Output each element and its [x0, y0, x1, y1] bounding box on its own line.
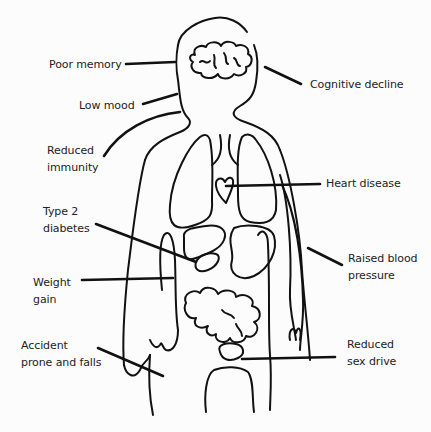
head-outline: [145, 18, 280, 160]
label-text-line1: Reduced: [47, 142, 99, 159]
digestive-organs: [184, 226, 275, 278]
bladder-icon: [219, 343, 243, 360]
body-diagram: Poor memory Low mood Reduced immunity Ty…: [0, 0, 431, 432]
label-text-line2: pressure: [348, 267, 417, 284]
label-type2-diabetes: Type 2 diabetes: [43, 203, 90, 237]
label-text-line2: sex drive: [347, 353, 396, 370]
label-weight-gain: Weight gain: [33, 274, 71, 308]
label-raised-blood-pressure: Raised blood pressure: [348, 250, 417, 284]
label-text-line2: prone and falls: [21, 354, 101, 371]
label-accident-prone: Accident prone and falls: [21, 337, 101, 371]
brain-icon: [190, 42, 252, 79]
label-text-line1: Reduced: [347, 336, 396, 353]
label-text-line2: gain: [33, 291, 71, 308]
label-text-line2: diabetes: [43, 220, 90, 237]
label-text: Cognitive decline: [310, 78, 404, 91]
legs-outline: [205, 367, 254, 412]
heart-icon: [216, 178, 233, 203]
label-reduced-sex-drive: Reduced sex drive: [347, 336, 396, 370]
label-text-line1: Weight: [33, 274, 71, 291]
label-text-line1: Type 2: [43, 203, 90, 220]
label-text-line1: Accident: [21, 337, 101, 354]
label-text: Poor memory: [49, 58, 122, 71]
label-low-mood: Low mood: [79, 97, 135, 114]
label-text-line2: immunity: [47, 159, 99, 176]
label-reduced-immunity: Reduced immunity: [47, 142, 99, 176]
lungs-icon: [170, 135, 277, 228]
label-text: Heart disease: [326, 177, 401, 190]
label-text: Low mood: [79, 99, 135, 112]
label-text-line1: Raised blood: [348, 250, 417, 267]
label-cognitive-decline: Cognitive decline: [310, 76, 404, 93]
label-poor-memory: Poor memory: [49, 56, 122, 73]
intestines-icon: [185, 288, 260, 343]
label-heart-disease: Heart disease: [326, 175, 401, 192]
